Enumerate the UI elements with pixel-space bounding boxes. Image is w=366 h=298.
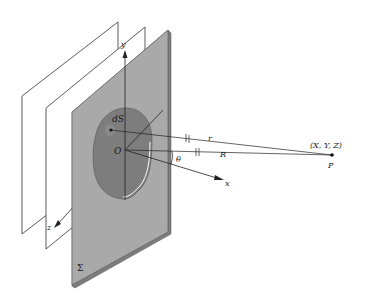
diffraction-diagram: y x z O dS r R θ (X, Y, Z) P Σ [0,0,366,298]
x-axis-label: x [225,179,230,188]
z-axis-label: z [46,223,52,232]
R-label: R [219,150,226,159]
point-coords-label: (X, Y, Z) [310,141,342,150]
origin-label: O [114,146,122,156]
surface-element-label: dS [112,114,124,124]
theta-label: θ [176,155,181,164]
y-axis-label: y [120,40,126,49]
observation-point [330,153,334,157]
point-label: P [327,161,334,170]
x-axis-arrowhead [214,175,224,180]
screen-label: Σ [77,263,83,273]
theta-arc [171,151,173,164]
